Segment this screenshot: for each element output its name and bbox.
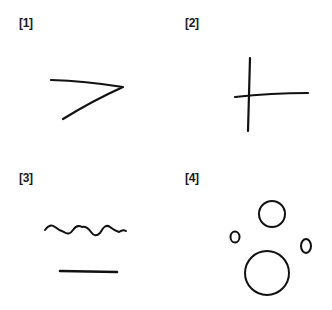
panel-1: [1] <box>0 0 166 155</box>
panel-2: [2] <box>166 0 332 155</box>
panel-3: [3] <box>0 155 166 310</box>
wave-and-line-icon <box>0 155 166 310</box>
cross-icon <box>166 0 332 155</box>
circles-icon <box>166 155 332 310</box>
panel-4: [4] <box>166 155 332 310</box>
angle-stroke-icon <box>0 0 166 155</box>
